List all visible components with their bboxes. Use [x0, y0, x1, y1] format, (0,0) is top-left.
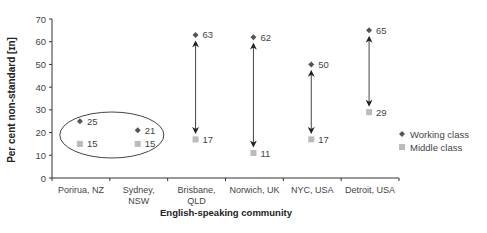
- data-label: 17: [203, 134, 214, 145]
- middle-class-marker: [308, 136, 314, 142]
- middle-class-marker: [193, 136, 199, 142]
- data-label: 25: [87, 116, 98, 127]
- data-label: 29: [376, 107, 387, 118]
- middle-class-marker: [135, 141, 141, 147]
- working-class-marker: [366, 27, 372, 33]
- data-label: 62: [260, 32, 271, 43]
- legend: Working classMiddle class: [399, 129, 469, 153]
- x-tick-label: NSW: [128, 196, 150, 206]
- x-tick-label: Brisbane,: [178, 185, 216, 195]
- data-label: 63: [203, 29, 214, 40]
- working-class-marker: [77, 118, 83, 124]
- data-label: 15: [145, 138, 156, 149]
- y-tick-label: 60: [35, 36, 46, 47]
- working-class-marker: [193, 32, 199, 38]
- middle-class-marker: [366, 109, 372, 115]
- y-tick-label: 10: [35, 150, 46, 161]
- data-label: 15: [87, 138, 98, 149]
- x-tick-label: Norwich, UK: [229, 185, 279, 195]
- x-axis: Porirua, NZSydney,NSWBrisbane,QLDNorwich…: [52, 178, 399, 206]
- x-axis-label: English-speaking community: [160, 207, 293, 218]
- y-tick-label: 50: [35, 59, 46, 70]
- data-label: 50: [318, 59, 329, 70]
- chart: 010203040506070 Porirua, NZSydney,NSWBri…: [0, 0, 487, 233]
- middle-class-marker: [250, 150, 256, 156]
- y-axis-label: Per cent non-standard [ɪn]: [6, 37, 17, 163]
- x-tick-label: Detroit, USA: [345, 185, 395, 195]
- y-tick-label: 70: [35, 14, 46, 25]
- legend-working-class-icon: [399, 131, 405, 137]
- working-class-marker: [135, 127, 141, 133]
- working-class-marker: [308, 61, 314, 67]
- legend-label: Middle class: [410, 142, 463, 153]
- x-tick-label: QLD: [187, 196, 206, 206]
- data-label: 17: [318, 134, 329, 145]
- data-label: 11: [260, 148, 270, 159]
- y-tick-label: 0: [41, 173, 46, 184]
- working-class-marker: [250, 34, 256, 40]
- y-tick-label: 40: [35, 82, 46, 93]
- data-label: 65: [376, 25, 387, 36]
- x-tick-label: Porirua, NZ: [58, 185, 105, 195]
- middle-class-marker: [77, 141, 83, 147]
- data-label: 21: [145, 125, 156, 136]
- legend-middle-class-icon: [399, 144, 405, 150]
- plot-area: 252163625065151517111729: [60, 25, 387, 159]
- y-axis: 010203040506070: [35, 14, 52, 184]
- legend-label: Working class: [410, 129, 469, 140]
- x-tick-label: Sydney,: [123, 185, 155, 195]
- x-tick-label: NYC, USA: [291, 185, 334, 195]
- y-tick-label: 30: [35, 104, 46, 115]
- y-tick-label: 20: [35, 127, 46, 138]
